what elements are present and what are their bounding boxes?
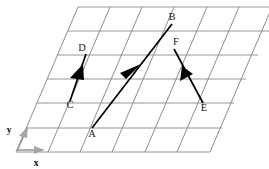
vector-grid-figure: A B C D E F x y	[0, 0, 269, 169]
vector-cd-arrowhead	[70, 64, 84, 80]
vector-ab	[92, 24, 172, 128]
point-label-c: C	[66, 99, 73, 110]
grid-slant-1	[48, 7, 110, 152]
point-label-e: E	[201, 102, 207, 113]
grid-slant-4	[145, 7, 207, 152]
axes	[17, 126, 45, 154]
vector-cd	[70, 54, 86, 101]
grid-slant-5	[177, 7, 239, 152]
grid-slant-3	[112, 7, 174, 152]
grid-horizontal-lines	[16, 7, 269, 152]
vector-ab-shaft	[92, 24, 172, 128]
x-axis-arrowhead	[34, 146, 45, 154]
point-label-a: A	[88, 128, 96, 139]
vector-ef	[174, 49, 203, 103]
y-axis-label: y	[7, 125, 12, 135]
grid-slanted-lines	[16, 7, 269, 152]
x-axis-label: x	[34, 158, 39, 168]
point-label-f: F	[173, 36, 179, 47]
point-label-d: D	[78, 42, 86, 53]
point-label-b: B	[168, 11, 175, 22]
grid-slant-6	[210, 7, 269, 152]
figure-canvas: A B C D E F x y	[0, 0, 269, 169]
y-axis-arrowhead	[19, 126, 28, 138]
